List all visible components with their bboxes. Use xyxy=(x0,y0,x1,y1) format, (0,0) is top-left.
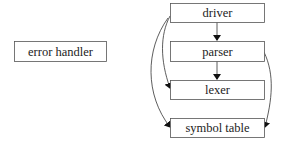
node-label: symbol table xyxy=(185,121,250,135)
edges xyxy=(151,16,271,127)
node-label: parser xyxy=(202,45,233,59)
node-label: error handler xyxy=(28,45,94,59)
edge-driver-symbol-table xyxy=(151,18,170,127)
node-parser[interactable]: parser xyxy=(171,42,265,62)
node-error-handler[interactable]: error handler xyxy=(15,42,107,62)
node-symbol-table[interactable]: symbol table xyxy=(171,119,265,138)
node-label: driver xyxy=(203,6,234,20)
node-label: lexer xyxy=(205,83,231,97)
edge-driver-lexer xyxy=(163,16,171,88)
dependency-diagram: error handler driver parser lexer symbol… xyxy=(0,0,284,145)
node-driver[interactable]: driver xyxy=(171,4,265,23)
node-lexer[interactable]: lexer xyxy=(171,81,265,100)
edge-parser-symbol-table xyxy=(264,52,271,127)
